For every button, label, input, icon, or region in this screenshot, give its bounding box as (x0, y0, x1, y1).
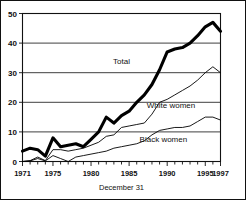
xtick-label-1997: 1997 (212, 169, 229, 178)
series-line-total (23, 22, 221, 156)
ytick-label-10: 10 (8, 128, 17, 137)
ytick-label-50: 50 (8, 10, 17, 19)
chart-stage: 010203040501971197519801985199019951997D… (1, 1, 245, 199)
ytick-label-40: 40 (8, 39, 17, 48)
series-label-total: Total (113, 57, 130, 66)
series-label-black-women: Black women (140, 135, 188, 144)
xtick-label-1971: 1971 (14, 169, 31, 178)
xtick-label-1975: 1975 (45, 169, 62, 178)
ytick-label-0: 0 (13, 158, 18, 167)
xtick-label-1995: 1995 (197, 169, 214, 178)
xtick-label-1985: 1985 (121, 169, 138, 178)
xtick-label-1980: 1980 (83, 169, 100, 178)
xtick-label-1990: 1990 (159, 169, 176, 178)
chart-figure: 010203040501971197519801985199019951997D… (0, 0, 246, 200)
ytick-label-20: 20 (8, 98, 17, 107)
ytick-label-30: 30 (8, 69, 17, 78)
series-label-white-women: White women (147, 101, 195, 110)
x-axis-title: December 31 (99, 183, 144, 192)
line-chart: 010203040501971197519801985199019951997D… (1, 1, 246, 200)
